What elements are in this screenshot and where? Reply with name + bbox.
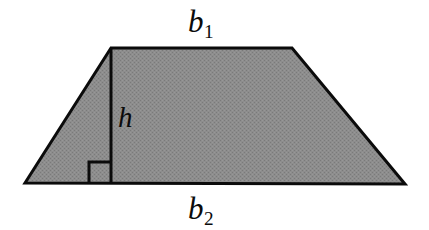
height-label: h <box>118 103 133 132</box>
top-base-label-letter: b <box>188 4 204 39</box>
bottom-base-label-subscript: 2 <box>204 208 214 229</box>
bottom-base-label: b2 <box>188 193 213 228</box>
top-base-label-subscript: 1 <box>204 21 214 42</box>
trapezoid-outline <box>25 48 405 184</box>
trapezoid-diagram-canvas <box>0 0 429 230</box>
trapezoid-figure: b1 h b2 <box>0 0 429 230</box>
bottom-base-label-letter: b <box>188 191 204 226</box>
top-base-label: b1 <box>188 6 213 41</box>
